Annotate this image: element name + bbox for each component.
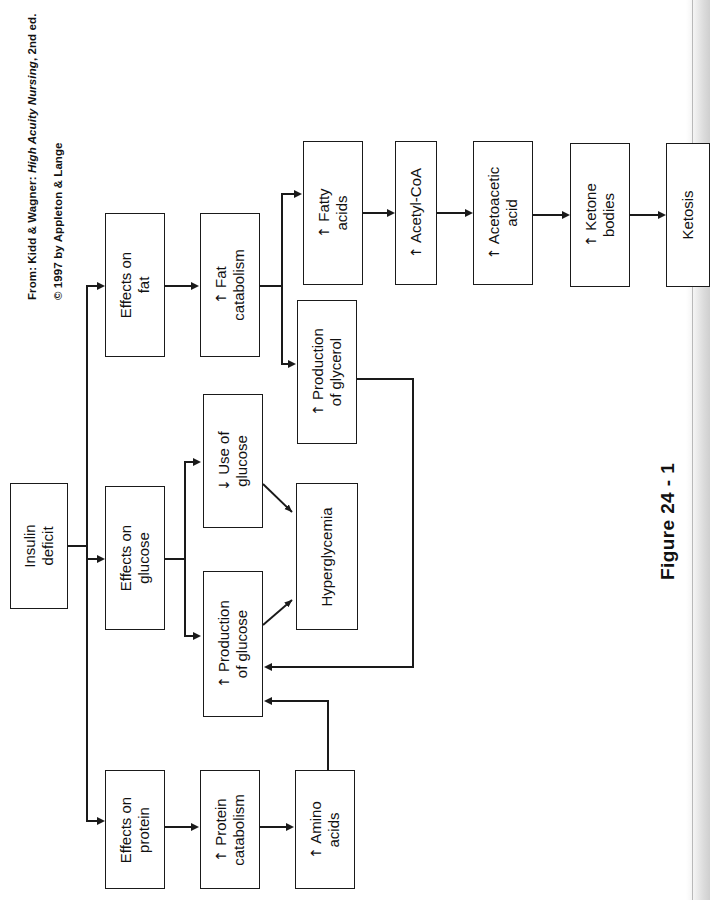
node-line: ↓ Use of [215,431,233,490]
node-line: protein [135,796,153,862]
connector-catabolism-to-splitter [260,285,282,287]
connector-glucose-splitter [184,461,186,637]
connector-glycerol-feedback-left [272,666,414,668]
node-line: deficit [39,524,57,567]
connector-catabolism-to-amino-acids [260,826,286,828]
node-fatty-acids: ↑ Fatty acids [303,141,363,285]
arrowhead-acetyl-coa-to-acetoacetic [465,209,473,217]
node-line: ↑ Fatty [315,188,333,237]
copyright-credit: © 1997 by Appleton & Lange [52,142,64,300]
node-line: ↑ Ketone [582,183,600,246]
node-production-of-glycerol: ↑ Production of glycerol [297,300,357,444]
connector-fatty-acids-to-acetyl-coa [363,212,387,214]
node-production-of-glycerol-label: ↑ Production of glycerol [309,328,344,416]
connector-bus-to-glucose [86,558,97,560]
node-use-of-glucose-label: ↓ Use of glucose [215,431,250,490]
node-line: Effects on [117,796,135,862]
connector-bus-to-protein [86,820,97,822]
node-line: fat [135,252,153,318]
source-credit-prefix: From: Kidd & Wagner: [26,173,38,300]
node-line: Effects on [117,525,135,591]
node-effects-on-fat-label: Effects on fat [117,252,152,318]
node-effects-on-protein-label: Effects on protein [117,796,152,862]
node-acetoacetic-acid-label: ↑ Acetoacetic acid [485,167,520,260]
node-amino-acids-label: ↑ Amino acids [307,801,342,859]
node-ketosis-label: Ketosis [679,190,697,239]
arrowhead-glycerol-feedback [264,663,272,671]
source-credit: From: Kidd & Wagner: High Acuity Nursing… [26,14,38,300]
node-line: ↑ Fat [212,249,230,321]
node-effects-on-glucose: Effects on glucose [105,486,165,630]
up-arrow-glyph: ↑ [216,676,232,688]
node-line: ↑ Production [215,600,233,688]
node-line: Ketosis [679,190,697,239]
node-line: ↑ Production [309,328,327,416]
node-line: Effects on [117,252,135,318]
connector-splitter-to-production-of-glucose [184,635,193,637]
arrowhead-splitter-to-fatty-acids [294,190,302,198]
up-arrow-glyph: ↑ [316,226,332,238]
node-fat-catabolism-label: ↑ Fat catabolism [212,249,247,321]
arrowhead-bus-to-protein [97,817,105,825]
connector-splitter-to-fatty-acids [281,193,294,195]
arrowhead-amino-feedback [264,697,272,705]
connector-glucose-to-splitter [165,558,186,560]
up-arrow-glyph: ↑ [408,246,424,258]
node-line: acid [503,167,521,260]
connector-acetyl-coa-to-acetoacetic [437,212,465,214]
node-production-of-glucose: ↑ Production of glucose [203,571,263,717]
node-line: ↑ Acetoacetic [485,167,503,260]
arrowhead-splitter-to-use-of-glucose [193,458,201,466]
node-line: catabolism [230,794,248,866]
node-line: Hyperglycemia [318,507,336,606]
arrowhead-catabolism-to-amino-acids [286,823,294,831]
node-acetoacetic-acid: ↑ Acetoacetic acid [473,141,533,285]
node-amino-acids: ↑ Amino acids [295,770,355,889]
arrowhead-bus-to-glucose [97,555,105,563]
connector-protein-to-catabolism [165,826,191,828]
arrowhead-acetoacetic-to-ketone-bodies [562,211,570,219]
up-arrow-glyph: ↑ [213,849,229,861]
arrowhead-fatty-acids-to-acetyl-coa [387,209,395,217]
node-effects-on-fat: Effects on fat [105,213,165,357]
node-ketone-bodies: ↑ Ketone bodies [570,143,630,287]
scanned-page: From: Kidd & Wagner: High Acuity Nursing… [0,0,710,900]
node-hyperglycemia: Hyperglycemia [296,483,358,630]
arrowhead-ketone-bodies-to-ketosis [658,211,666,219]
connector-distribution-bus [86,285,88,821]
connector-production-of-glucose-to-hyperglycemia [263,600,292,625]
connector-fat-splitter [281,193,283,365]
node-fat-catabolism: ↑ Fat catabolism [200,213,260,357]
up-arrow-glyph: ↑ [583,235,599,247]
connector-acetoacetic-to-ketone-bodies [533,214,562,216]
node-line: catabolism [230,249,248,321]
node-production-of-glucose-label: ↑ Production of glucose [215,600,250,688]
node-line: glucose [233,431,251,490]
figure-caption: Figure 24 - 1 [657,463,679,580]
node-fatty-acids-label: ↑ Fatty acids [315,188,350,237]
connector-splitter-to-glycerol [281,363,288,365]
up-arrow-glyph: ↑ [486,248,502,260]
arrowhead-splitter-to-production-of-glucose [193,632,201,640]
node-line: of glucose [233,600,251,688]
node-line: acids [333,188,351,237]
arrowhead-bus-to-fat [97,282,105,290]
node-acetyl-coa-label: ↑ Acetyl-CoA [407,168,425,258]
node-insulin-deficit-label: Insulin deficit [21,524,56,567]
node-line: ↑ Amino [307,801,325,859]
node-line: ↑ Acetyl-CoA [407,168,425,258]
arrowhead-splitter-to-glycerol [288,360,296,368]
node-protein-catabolism: ↑ Protein catabolism [200,770,260,889]
connector-splitter-to-use-of-glucose [184,461,193,463]
source-credit-title: High Acuity Nursing [26,61,38,173]
connector-ketone-bodies-to-ketosis [630,214,658,216]
node-hyperglycemia-label: Hyperglycemia [318,507,336,606]
up-arrow-glyph: ↑ [308,847,324,859]
page-edge-line [692,0,693,900]
node-effects-on-protein: Effects on protein [105,770,165,889]
page-edge-shadow [686,0,710,900]
node-protein-catabolism-label: ↑ Protein catabolism [212,794,247,866]
connector-bus-to-fat [86,285,97,287]
connector-glycerol-feedback-down [412,378,414,668]
node-ketosis: Ketosis [666,143,710,287]
